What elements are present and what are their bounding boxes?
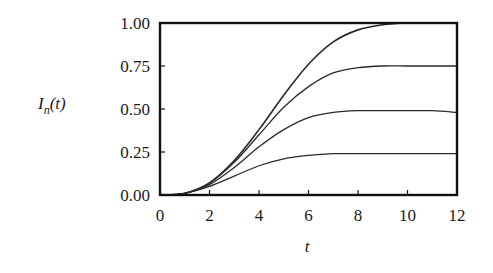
y-tick-label: 0.75 — [120, 57, 150, 76]
x-tick-label: 8 — [354, 206, 363, 225]
x-tick-label: 6 — [304, 206, 313, 225]
line-curve-0.25 — [160, 154, 457, 195]
plot-border — [160, 23, 457, 195]
line-curve-0.75 — [160, 66, 457, 195]
curves — [160, 23, 457, 195]
x-tick-label: 0 — [156, 206, 165, 225]
y-tick-label: 0.00 — [120, 186, 150, 205]
y-axis-label: In(t) — [37, 94, 66, 117]
x-tick-label: 2 — [205, 206, 214, 225]
y-tick-label: 0.25 — [120, 143, 150, 162]
x-tick-label: 4 — [255, 206, 264, 225]
plot-frame — [160, 23, 457, 195]
line-curve-1.00 — [160, 23, 457, 195]
x-axis-label: t — [305, 237, 311, 256]
line-curve-0.50 — [160, 111, 457, 195]
y-axis-ticks: 0.000.250.500.751.00 — [120, 14, 165, 205]
y-tick-label: 0.50 — [120, 100, 150, 119]
x-tick-label: 10 — [399, 206, 416, 225]
x-tick-label: 12 — [449, 206, 466, 225]
chart: 024681012 0.000.250.500.751.00 In(t) t — [0, 0, 493, 273]
y-tick-label: 1.00 — [120, 14, 150, 33]
